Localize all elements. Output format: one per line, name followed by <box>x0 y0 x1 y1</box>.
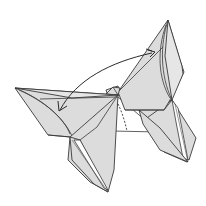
upper-right-wing <box>118 20 184 110</box>
origami-diagram <box>0 0 206 206</box>
